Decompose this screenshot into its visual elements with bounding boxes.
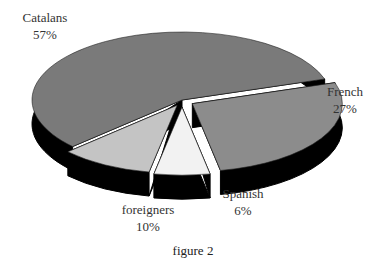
label-spanish-name: Spanish — [222, 186, 264, 201]
pie-chart: Catalans 57% French 27% Spanish 6% forei… — [0, 0, 378, 259]
label-foreigners-value: 10% — [136, 219, 160, 234]
figure-caption: figure 2 — [173, 243, 214, 258]
label-catalans-value: 57% — [33, 27, 57, 42]
label-foreigners-name: foreigners — [122, 202, 175, 217]
label-catalans-name: Catalans — [23, 10, 68, 25]
label-french-name: French — [327, 84, 364, 99]
label-spanish-value: 6% — [234, 203, 252, 218]
label-french-value: 27% — [333, 101, 357, 116]
